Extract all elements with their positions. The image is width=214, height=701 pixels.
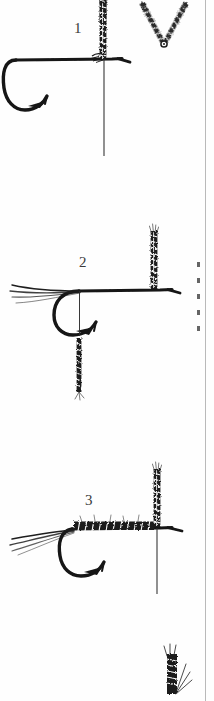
text-fragment (197, 278, 200, 283)
hanging-hackle-step-2 (75, 338, 84, 400)
wing-post-step-2 (149, 224, 158, 289)
dubbing-fibers-step-3 (80, 515, 139, 522)
column-divider-rule (205, 0, 206, 701)
dubbed-body-step-3 (74, 520, 154, 531)
illustration-page: 1 2 3 (0, 0, 214, 701)
step-number-3: 3 (85, 493, 93, 508)
wing-post-step-3 (152, 462, 161, 527)
figure-step-1 (3, 0, 188, 156)
bottom-cropped-hackle (164, 644, 192, 694)
text-fragment (197, 326, 200, 331)
text-fragment (197, 310, 200, 315)
figure-step-3 (10, 462, 182, 594)
hook-step-1 (3, 59, 130, 111)
tail-fibers-step-2 (10, 285, 80, 303)
step-number-1: 1 (74, 21, 82, 36)
text-fragment (197, 262, 200, 267)
text-fragment (197, 294, 200, 299)
step-number-2: 2 (79, 255, 87, 270)
wing-post-step-1 (98, 0, 107, 60)
hook-step-2 (54, 290, 180, 336)
split-wing-v-step-1 (139, 1, 188, 47)
cropped-column-text-fragments (197, 262, 203, 340)
hook-step-3 (59, 528, 182, 577)
fly-tying-figures (0, 0, 214, 701)
figure-step-2 (10, 224, 180, 400)
